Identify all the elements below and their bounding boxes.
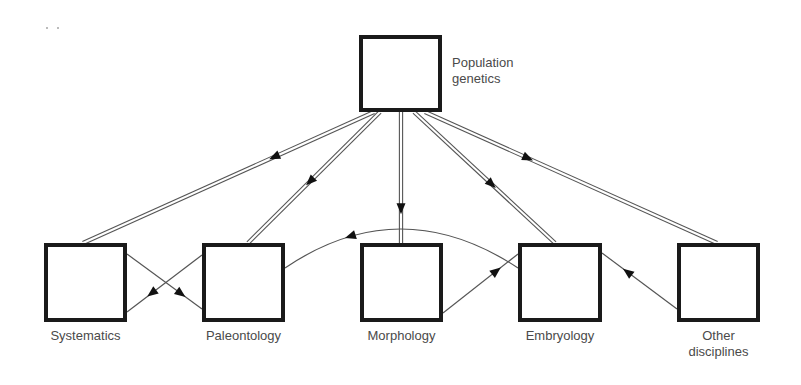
node-label-line: disciplines <box>647 344 790 360</box>
connector-line <box>127 255 202 312</box>
connector-line <box>602 253 677 309</box>
arrowhead-icon <box>306 174 317 185</box>
connector-line <box>249 113 381 244</box>
node-label-population-genetics: Populationgenetics <box>452 55 513 87</box>
node-label-morphology: Morphology <box>330 328 473 344</box>
node-label-systematics: Systematics <box>14 328 157 344</box>
arrowhead-icon <box>397 203 406 214</box>
edge-systematics-to-paleontology <box>127 254 202 309</box>
node-label-line: Morphology <box>330 328 473 344</box>
edge-other-disciplines-to-embryology <box>602 253 677 309</box>
edge-population-genetics-to-paleontology <box>247 111 381 244</box>
connector-line <box>413 113 554 244</box>
arrowhead-icon <box>174 287 186 297</box>
connector-line <box>415 111 556 242</box>
arrowhead-icon <box>147 286 158 296</box>
node-box-other-disciplines <box>677 243 760 322</box>
connector-line <box>127 254 202 309</box>
arrowhead-icon <box>345 230 357 239</box>
node-box-embryology <box>518 243 602 322</box>
arrowhead-icon <box>623 269 635 279</box>
node-box-population-genetics <box>359 35 442 112</box>
edge-paleontology-to-systematics <box>127 255 202 312</box>
arrowhead-icon <box>485 177 496 188</box>
node-label-paleontology: Paleontology <box>172 328 315 344</box>
connector-line <box>443 254 518 313</box>
node-label-embryology: Embryology <box>488 328 632 344</box>
edge-morphology-to-embryology <box>443 254 518 313</box>
edge-population-genetics-to-morphology <box>399 112 402 243</box>
arrowhead-icon <box>269 151 281 160</box>
connector-line <box>84 113 375 244</box>
connector-line <box>426 111 718 242</box>
connector-line <box>82 111 373 242</box>
node-label-line: genetics <box>452 71 513 87</box>
edge-population-genetics-to-systematics <box>82 111 374 245</box>
node-label-line: Other <box>647 328 790 344</box>
node-label-line: Paleontology <box>172 328 315 344</box>
node-box-systematics <box>44 243 127 322</box>
arrowhead-icon <box>489 268 500 278</box>
edge-population-genetics-to-other-disciplines <box>424 111 717 245</box>
connector-line <box>247 111 379 242</box>
arrowhead-icon <box>521 152 533 161</box>
node-label-line: Embryology <box>488 328 632 344</box>
edge-population-genetics-to-embryology <box>413 111 556 244</box>
node-label-other-disciplines: Otherdisciplines <box>647 328 790 360</box>
node-box-paleontology <box>202 243 285 322</box>
node-box-morphology <box>360 243 443 322</box>
connector-line <box>424 113 716 244</box>
node-label-line: Systematics <box>14 328 157 344</box>
node-label-line: Population <box>452 55 513 71</box>
